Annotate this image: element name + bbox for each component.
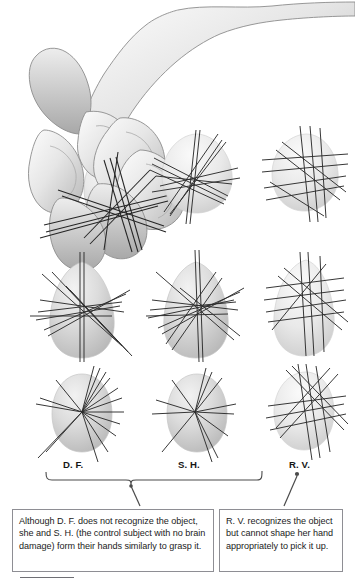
figure-grasp-axes-diagram: D. F. S. H. R. V. Although D. F. does no… [0, 0, 355, 582]
bracket-pointer-line [131, 486, 140, 506]
bracket-path [46, 471, 262, 486]
df-sh-group-bracket [46, 471, 262, 506]
figure-artwork [0, 0, 355, 582]
grasp-panel-rv-row1 [262, 126, 348, 222]
column-label-sh: S. H. [178, 459, 200, 470]
caption-right: R. V. recognizes the object but cannot s… [219, 509, 343, 572]
rv-pointer [284, 472, 299, 506]
grasp-panel-rv-row3 [266, 364, 348, 460]
grasp-panel-rv-row2 [264, 252, 348, 356]
grasp-panel-sh-row3 [152, 368, 236, 462]
bracket-pointer-dot [129, 484, 133, 488]
footer-rule [20, 577, 74, 578]
rv-pointer-dot [295, 472, 299, 476]
column-label-rv: R. V. [289, 459, 310, 470]
caption-left: Although D. F. does not recognize the ob… [12, 509, 214, 572]
grasp-panel-sh-row2 [146, 250, 244, 362]
column-label-df: D. F. [63, 459, 83, 470]
grasp-panel-df-row2 [30, 252, 132, 362]
rv-pointer-line [284, 476, 297, 506]
grasp-panel-df-row3 [36, 366, 124, 462]
object-shape [274, 260, 334, 356]
